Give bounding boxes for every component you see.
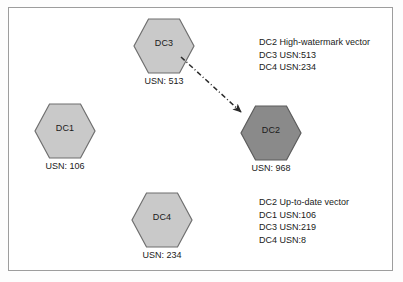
node-dc2[interactable]: DC2 USN: 968 [240,105,302,183]
node-label-dc1: DC1 [34,123,96,133]
node-dc4[interactable]: DC4 USN: 234 [131,192,193,270]
node-dc3[interactable]: DC3 USN: 513 [133,18,195,96]
node-usn-dc1: USN: 106 [22,161,108,171]
annotation-up-to-date-line-1: DC1 USN:106 [259,209,349,222]
node-dc1[interactable]: DC1 USN: 106 [34,103,96,181]
annotation-up-to-date-line-3: DC4 USN:8 [259,234,349,247]
node-usn-dc4: USN: 234 [119,250,205,260]
annotation-high-watermark-line-2: DC4 USN:234 [259,61,370,74]
annotation-up-to-date-heading: DC2 Up-to-date vector [259,196,349,209]
annotation-high-watermark-line-1: DC3 USN:513 [259,49,370,62]
node-label-dc4: DC4 [131,212,193,222]
node-usn-dc3: USN: 513 [121,76,207,86]
diagram-canvas: DC3 USN: 513 DC1 USN: 106 DC2 USN: 968 D… [0,0,403,282]
annotation-high-watermark-heading: DC2 High-watermark vector [259,36,370,49]
annotation-up-to-date-line-2: DC3 USN:219 [259,221,349,234]
annotation-high-watermark: DC2 High-watermark vector DC3 USN:513 DC… [259,36,370,74]
annotation-up-to-date: DC2 Up-to-date vector DC1 USN:106 DC3 US… [259,196,349,246]
node-label-dc3: DC3 [133,38,195,48]
node-usn-dc2: USN: 968 [228,163,314,173]
node-label-dc2: DC2 [240,125,302,135]
